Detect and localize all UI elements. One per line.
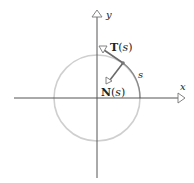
normal-label-main: N bbox=[101, 86, 111, 99]
normal-vector bbox=[110, 63, 123, 80]
y-axis-arrow-icon bbox=[92, 10, 102, 17]
normal-label: N(s) bbox=[101, 86, 125, 99]
arc-label: s bbox=[138, 69, 143, 80]
x-axis-arrow-icon bbox=[178, 93, 185, 103]
tangent-label-paren-close: ) bbox=[128, 41, 132, 54]
curve-point bbox=[121, 61, 125, 65]
y-axis-label: y bbox=[105, 9, 112, 20]
normal-label-paren-close: ) bbox=[121, 86, 125, 99]
frenet-diagram: y x s T(s) N(s) bbox=[0, 0, 194, 183]
tangent-label: T(s) bbox=[110, 41, 132, 54]
x-axis-label: x bbox=[180, 81, 186, 92]
